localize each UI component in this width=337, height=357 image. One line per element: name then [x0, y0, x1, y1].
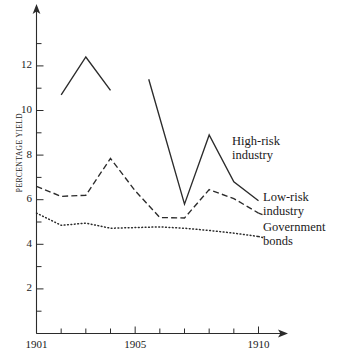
x-tick-label-1901: 1901	[20, 338, 54, 350]
series-high-risk-industry-segment-1	[61, 57, 110, 95]
annotation-high-risk-industry: High-risk industry	[232, 134, 280, 162]
annotation-leader-lines	[259, 213, 263, 237]
annotation-government-line1: Government	[263, 220, 325, 234]
y-tick-label-10: 10	[14, 103, 32, 115]
y-tick-label-2: 2	[14, 281, 32, 293]
annotation-government-bonds: Government bonds	[263, 220, 325, 248]
data-series-group	[37, 57, 259, 237]
chart-plot-area	[0, 0, 337, 357]
y-axis-ticks	[37, 44, 44, 312]
leader-low-risk	[259, 213, 263, 215]
y-tick-label-8: 8	[14, 148, 32, 160]
y-tick-label-6: 6	[14, 192, 32, 204]
series-low-risk-industry	[37, 158, 259, 218]
x-axis-ticks	[37, 327, 259, 334]
annotation-high-risk-line2: industry	[232, 148, 280, 162]
annotation-high-risk-line1: High-risk	[232, 134, 280, 148]
y-tick-label-12: 12	[14, 58, 32, 70]
leader-government-bonds	[259, 236, 263, 237]
annotation-low-risk-line2: industry	[263, 204, 309, 218]
x-tick-label-1910: 1910	[242, 338, 276, 350]
annotation-low-risk-industry: Low-risk industry	[263, 190, 309, 218]
yield-line-chart: PERCENTAGE YIELD 190119051910 24681012 H…	[0, 0, 337, 357]
axes	[33, 4, 288, 337]
y-tick-label-4: 4	[14, 237, 32, 249]
annotation-low-risk-line1: Low-risk	[263, 190, 309, 204]
annotation-government-line2: bonds	[263, 234, 325, 248]
series-government-bonds	[37, 213, 259, 236]
x-tick-label-1905: 1905	[118, 338, 152, 350]
